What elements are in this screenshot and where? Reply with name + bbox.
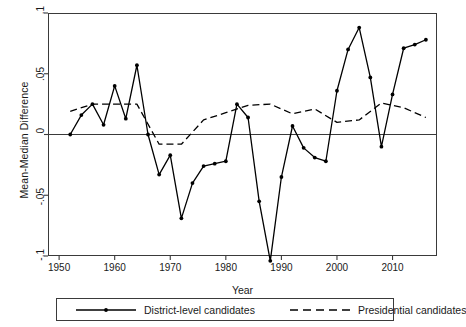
x-axis-title: Year: [48, 284, 437, 296]
legend-item-district-level: District-level candidates: [75, 304, 255, 316]
legend-key-solid-line: [75, 304, 137, 316]
legend-key-dashed-line: [289, 304, 351, 316]
y-tick-label: .05: [36, 67, 46, 91]
x-tick-label: 1970: [147, 262, 193, 273]
legend-label-district-level: District-level candidates: [144, 304, 255, 316]
x-tick-label: 1990: [258, 262, 304, 273]
legend-item-presidential: Presidential candidates: [289, 304, 466, 316]
x-tick-label: 2010: [370, 262, 416, 273]
legend-label-presidential: Presidential candidates: [358, 304, 466, 316]
plot-area: [48, 13, 437, 256]
y-tick-label: -.05: [36, 188, 46, 212]
y-axis-title: Mean-Median Difference: [18, 30, 30, 250]
x-tick-label: 1950: [36, 262, 82, 273]
x-tick-label: 2000: [314, 262, 360, 273]
y-tick-label: 0: [36, 128, 46, 152]
x-tick-label: 1960: [92, 262, 138, 273]
x-tick-label: 1980: [203, 262, 249, 273]
y-tick-label: .1: [36, 6, 46, 30]
chart-legend: District-level candidates Presidential c…: [56, 298, 394, 321]
